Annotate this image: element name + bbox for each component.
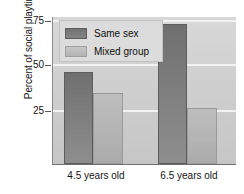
x-axis-line [52, 164, 236, 165]
legend-label-mixed-group: Mixed group [94, 46, 149, 57]
bar-chart: Percent of social playtime 75 50 25 Same… [0, 0, 244, 194]
x-tick-label-6-5-years: 6.5 years old [151, 170, 227, 181]
y-axis-ticks: 75 50 25 [20, 0, 44, 194]
y-tick-mark-75 [45, 21, 51, 22]
bar-mixed-group-6-5 [187, 108, 217, 164]
legend-swatch-icon-same-sex [65, 28, 87, 39]
gridline-50 [53, 64, 236, 66]
legend-label-same-sex: Same sex [94, 28, 138, 39]
bar-mixed-group-4-5 [93, 93, 123, 164]
y-tick-label-25: 25 [22, 105, 44, 116]
y-tick-label-75: 75 [22, 15, 44, 26]
legend-item-mixed-group: Mixed group [65, 43, 157, 59]
y-tick-mark-50 [45, 65, 51, 66]
bar-same-sex-4-5 [64, 72, 93, 164]
legend-item-same-sex: Same sex [65, 25, 157, 41]
y-tick-label-50: 50 [22, 59, 44, 70]
legend: Same sex Mixed group [59, 20, 163, 62]
legend-swatch-icon-mixed-group [65, 46, 87, 57]
plot-area: Same sex Mixed group [52, 17, 236, 164]
y-tick-mark-25 [45, 111, 51, 112]
x-tick-label-4-5-years: 4.5 years old [58, 170, 134, 181]
